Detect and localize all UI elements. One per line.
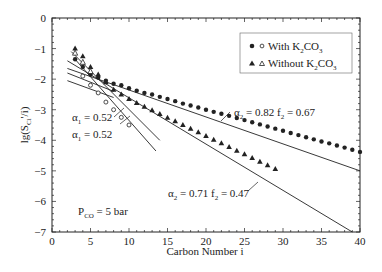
filled-circle-marker [196, 105, 200, 109]
filled-circle-marker [142, 91, 146, 95]
filled-circle-marker [319, 139, 323, 143]
open-circle-marker [89, 83, 93, 87]
filled-circle-marker [335, 143, 339, 147]
filled-triangle-marker [249, 155, 255, 160]
x-tick-label: 40 [355, 235, 367, 247]
filled-circle-marker [188, 103, 192, 107]
filled-circle-marker [350, 148, 354, 152]
filled-circle-marker [173, 99, 177, 103]
filled-circle-marker [181, 101, 185, 105]
open-circle-marker [104, 100, 108, 104]
filled-triangle-marker [180, 122, 186, 127]
filled-triangle-marker [80, 53, 86, 58]
filled-circle-marker [111, 82, 115, 86]
x-tick-label: 5 [88, 235, 94, 247]
annotation-alpha1-a: α1 = 0.52 [72, 111, 112, 126]
legend-filled-circle-icon [250, 44, 255, 49]
filled-triangle-marker [165, 115, 171, 120]
filled-triangle-marker [226, 144, 232, 149]
y-axis-label: lg(SCi'/i) [18, 106, 33, 143]
y-tick-label: −1 [34, 43, 46, 55]
x-tick-label: 30 [278, 235, 290, 247]
y-tick-label: −7 [34, 226, 46, 238]
x-tick-label: 35 [316, 235, 328, 247]
filled-circle-marker [358, 150, 362, 154]
leader-line [248, 182, 258, 191]
filled-circle-marker [327, 141, 331, 145]
filled-circle-marker [150, 92, 154, 96]
x-tick-label: 0 [49, 235, 55, 247]
chart: 05101520253035400−1−2−3−4−5−6−7 With K2C… [0, 0, 382, 272]
filled-circle-marker [265, 124, 269, 128]
filled-circle-marker [342, 145, 346, 149]
filled-circle-marker [212, 110, 216, 114]
y-tick-label: 0 [41, 12, 47, 24]
filled-circle-marker [204, 108, 208, 112]
y-tick-label: −3 [34, 104, 46, 116]
open-triangle-marker [73, 50, 78, 55]
open-circle-marker [127, 123, 131, 127]
open-circle-marker [96, 91, 100, 95]
open-circle-marker [119, 115, 123, 119]
x-tick-label: 10 [124, 235, 136, 247]
filled-circle-marker [304, 135, 308, 139]
filled-triangle-marker [196, 129, 202, 134]
filled-triangle-marker [188, 126, 194, 131]
y-tick-label: −4 [34, 134, 46, 146]
filled-circle-marker [281, 129, 285, 133]
annotation-alpha2-with: α2 = 0.82 f2 = 0.67 [234, 106, 316, 121]
filled-circle-marker [119, 83, 123, 87]
open-circle-marker [81, 74, 85, 78]
filled-triangle-marker [273, 166, 279, 171]
annotation-alpha2-without: α2 = 0.71 f2 = 0.47 [168, 187, 250, 202]
filled-triangle-marker [257, 159, 263, 164]
filled-circle-marker [289, 131, 293, 135]
filled-triangle-marker [219, 140, 225, 145]
filled-triangle-marker [172, 118, 178, 123]
y-tick-label: −5 [34, 165, 46, 177]
legend: With K2CO3 Without K2CO3 [240, 33, 352, 73]
y-tick-label: −2 [34, 73, 46, 85]
filled-triangle-marker [203, 133, 209, 138]
filled-triangle-marker [95, 72, 101, 77]
filled-triangle-marker [265, 162, 271, 167]
filled-triangle-marker [234, 148, 240, 153]
filled-circle-marker [296, 133, 300, 137]
filled-circle-marker [73, 57, 77, 61]
legend-open-circle-icon [260, 44, 264, 48]
filled-circle-marker [273, 126, 277, 130]
filled-triangle-marker [157, 111, 163, 116]
filled-circle-marker [135, 89, 139, 93]
x-axis-label: Carbon Number i [167, 245, 244, 257]
filled-circle-marker [81, 65, 85, 69]
annotation-alpha1-b: α1 = 0.52 [72, 128, 112, 143]
filled-circle-marker [158, 95, 162, 99]
annotations: α1 = 0.52 α1 = 0.52 α2 = 0.82 f2 = 0.67 … [72, 106, 316, 220]
y-tick-label: −6 [34, 195, 46, 207]
filled-circle-marker [250, 120, 254, 124]
filled-circle-marker [219, 111, 223, 115]
filled-circle-marker [165, 97, 169, 101]
filled-circle-marker [312, 137, 316, 141]
filled-triangle-marker [134, 100, 140, 105]
filled-triangle-marker [211, 137, 217, 142]
annotation-pco: PCO = 5 bar [78, 205, 128, 220]
filled-circle-marker [127, 86, 131, 90]
filled-triangle-marker [149, 107, 155, 112]
filled-circle-marker [258, 122, 262, 126]
filled-triangle-marker [242, 151, 248, 156]
